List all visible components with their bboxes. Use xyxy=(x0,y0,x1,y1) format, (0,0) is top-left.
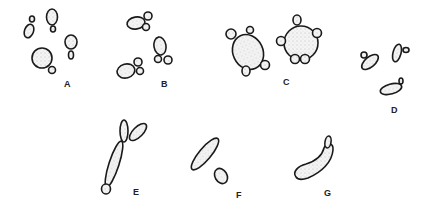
panel-d: D xyxy=(359,43,409,115)
panel-label-g: G xyxy=(324,188,331,198)
panel-g: G xyxy=(295,136,333,198)
yeast-morphology-figure: A B C D xyxy=(0,0,433,209)
panel-label-a: A xyxy=(64,79,71,89)
panel-a: A xyxy=(22,9,77,89)
panel-label-d: D xyxy=(391,105,398,115)
panel-label-e: E xyxy=(133,187,139,197)
panel-c: C xyxy=(226,15,322,87)
panel-b: B xyxy=(115,12,172,89)
panel-label-f: F xyxy=(236,190,242,200)
panel-label-c: C xyxy=(283,77,290,87)
panel-f: F xyxy=(188,135,242,200)
panel-e: E xyxy=(102,120,150,197)
panel-label-b: B xyxy=(161,79,168,89)
